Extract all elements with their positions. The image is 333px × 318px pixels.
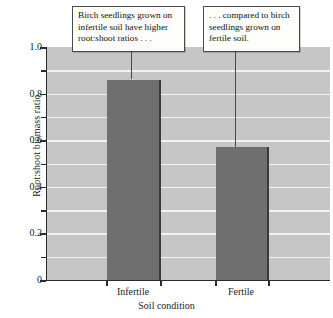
- callout-infertile: Birch seedlings grown on infertile soil …: [72, 6, 185, 52]
- bar-infertile[interactable]: [107, 80, 161, 280]
- y-tick-label-0.4: 0.4: [2, 182, 42, 192]
- y-axis-title: Root:shoot biomass ratio: [31, 46, 42, 246]
- gridlines: [47, 47, 330, 280]
- gridline-0.6: [47, 140, 330, 142]
- x-tick-infertile-right: [160, 281, 162, 286]
- bar-fertile[interactable]: [216, 147, 269, 280]
- gridline-0.7: [47, 117, 330, 119]
- gridline-0.3: [47, 210, 330, 212]
- gridline-0.5: [47, 164, 330, 166]
- y-tick-label-0: 0: [2, 275, 42, 285]
- y-tick-label-0.6: 0.6: [2, 135, 42, 145]
- bar-chart-figure: Root:shoot biomass ratio 1.0 0.8 0.6 0.4…: [0, 0, 333, 318]
- gridline-0.2: [47, 233, 330, 235]
- x-axis-title: Soil condition: [0, 300, 333, 311]
- gridline-0.4: [47, 187, 330, 189]
- x-tick-fertile-right: [268, 281, 270, 286]
- gridline-0.1: [47, 257, 330, 259]
- x-tick-infertile-left: [106, 281, 108, 286]
- x-tick-label-infertile: Infertile: [117, 286, 149, 297]
- plot-area: [46, 47, 330, 281]
- callout-infertile-leader-line: [131, 52, 132, 79]
- callout-fertile-leader-line: [235, 52, 236, 147]
- y-tick-label-0.2: 0.2: [2, 228, 42, 238]
- x-tick-label-fertile: Fertile: [228, 286, 254, 297]
- gridline-0.9: [47, 70, 330, 72]
- callout-fertile: . . . compared to birch seedlings grown …: [203, 6, 300, 52]
- y-tick-label-0.8: 0.8: [2, 89, 42, 99]
- y-tick-label-1.0: 1.0: [2, 42, 42, 52]
- x-tick-fertile-left: [215, 281, 217, 286]
- gridline-0.8: [47, 94, 330, 96]
